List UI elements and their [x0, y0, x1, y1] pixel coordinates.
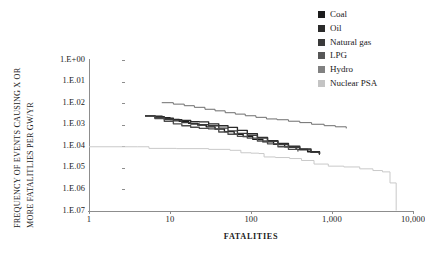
- y-axis-title-line-1: FREQUENCY OF EVENTS CAUSING X OR: [13, 68, 22, 228]
- x-axis-title: FATALITIES: [89, 232, 413, 241]
- legend-swatch-icon: [318, 66, 325, 73]
- x-axis-tick-labels: 1101001,00010,000: [0, 214, 422, 230]
- legend-label: Nuclear PSA: [330, 79, 377, 88]
- legend-swatch-icon: [318, 80, 325, 87]
- x-tick-label: 10,000: [401, 214, 425, 224]
- legend-swatch-icon: [318, 25, 325, 32]
- y-tick-label: 1.E.02: [39, 98, 85, 107]
- legend-swatch-icon: [318, 11, 325, 18]
- x-tick-label: 10: [166, 214, 175, 224]
- legend-label: Hydro: [330, 65, 353, 74]
- legend-label: Oil: [330, 24, 342, 33]
- x-tick-mark: [170, 211, 171, 214]
- y-axis-title-line-2: MORE FATALITLIES PER GW/YR: [26, 102, 35, 228]
- legend-item[interactable]: LPG: [318, 49, 422, 63]
- x-tick-mark: [413, 211, 414, 214]
- y-tick-label: 1.E.06: [39, 184, 85, 193]
- y-tick-label: 1.E.04: [39, 141, 85, 150]
- legend-item[interactable]: Natural gas: [318, 35, 422, 49]
- legend-item[interactable]: Nuclear PSA: [318, 76, 422, 90]
- x-tick-label: 1: [87, 214, 91, 224]
- x-tick-mark: [332, 211, 333, 214]
- legend-label: Natural gas: [330, 38, 371, 47]
- y-axis-title: FREQUENCY OF EVENTS CAUSING X OR MORE FA…: [0, 0, 36, 240]
- legend-item[interactable]: Coal: [318, 8, 422, 22]
- series-line: [146, 116, 298, 151]
- legend-swatch-icon: [318, 39, 325, 46]
- legend-label: LPG: [330, 51, 347, 60]
- x-tick-label: 100: [244, 214, 257, 224]
- y-tick-label: 1.E.03: [39, 119, 85, 128]
- y-tick-label: 1.E.01: [39, 76, 85, 85]
- legend-item[interactable]: Oil: [318, 22, 422, 36]
- x-tick-label: 1,000: [322, 214, 342, 224]
- y-tick-label: 1.E.05: [39, 162, 85, 171]
- chart-legend: CoalOilNatural gasLPGHydroNuclear PSA: [318, 8, 422, 90]
- series-line: [89, 147, 396, 210]
- y-tick-label: 1.E+00: [39, 55, 85, 64]
- legend-item[interactable]: Hydro: [318, 63, 422, 77]
- series-line: [162, 103, 346, 128]
- legend-swatch-icon: [318, 52, 325, 59]
- x-tick-mark: [89, 211, 90, 214]
- legend-label: Coal: [330, 10, 347, 19]
- x-tick-mark: [251, 211, 252, 214]
